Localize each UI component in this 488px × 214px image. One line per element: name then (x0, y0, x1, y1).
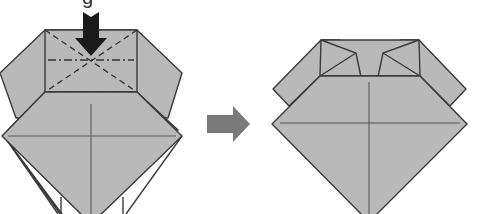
diagram-canvas (0, 0, 488, 214)
transition-arrow-icon (207, 106, 250, 142)
origami-diagram: g (0, 0, 488, 214)
step-before-figure (0, 12, 182, 214)
caption-fragment: g (82, 0, 93, 9)
step-after-figure (272, 40, 467, 214)
diamond-layer (2, 92, 182, 214)
